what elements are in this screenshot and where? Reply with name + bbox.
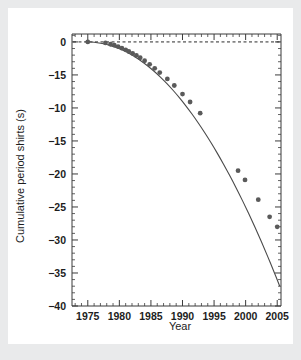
y-tick-label: −20 <box>48 168 66 180</box>
data-point <box>138 55 143 60</box>
y-tick-label: −30 <box>48 234 66 246</box>
y-tick-label: −10 <box>48 102 66 114</box>
data-point <box>165 76 170 81</box>
fit-curve <box>85 42 279 286</box>
figure-card: 19751980198519901995200020050−15−10−15−2… <box>8 8 293 344</box>
x-tick-label: 1980 <box>108 310 132 322</box>
figure-outer-frame: 19751980198519901995200020050−15−10−15−2… <box>0 0 301 360</box>
data-point <box>180 92 185 97</box>
y-tick-label: −35 <box>48 267 66 279</box>
data-point <box>236 168 241 173</box>
x-axis-title: Year <box>169 320 192 332</box>
data-point <box>198 111 203 116</box>
y-tick-label: −40 <box>48 300 66 312</box>
data-point <box>267 214 272 219</box>
chart-plot-area: 19751980198519901995200020050−15−10−15−2… <box>8 8 293 344</box>
x-tick-label: 2000 <box>234 310 258 322</box>
data-point <box>152 66 157 71</box>
data-point <box>157 70 162 75</box>
data-point <box>243 178 248 183</box>
data-point <box>256 197 261 202</box>
y-tick-label: −25 <box>48 201 66 213</box>
y-tick-label: −15 <box>48 135 66 147</box>
data-points-group <box>85 40 279 230</box>
data-point <box>275 224 280 229</box>
data-point <box>85 40 90 45</box>
data-point <box>188 100 193 105</box>
data-point <box>172 83 177 88</box>
y-tick-label: −15 <box>48 69 66 81</box>
data-point <box>103 41 108 46</box>
x-tick-label: 2005 <box>266 310 290 322</box>
x-tick-label: 1975 <box>76 310 100 322</box>
data-point <box>142 58 147 63</box>
data-point <box>147 62 152 67</box>
x-tick-label: 1985 <box>139 310 163 322</box>
data-curve <box>85 42 279 286</box>
axes-group <box>72 34 281 306</box>
y-tick-label: 0 <box>60 36 66 48</box>
x-tick-label: 1995 <box>202 310 226 322</box>
y-axis-title: Cumulative period shirts (s) <box>14 109 26 243</box>
